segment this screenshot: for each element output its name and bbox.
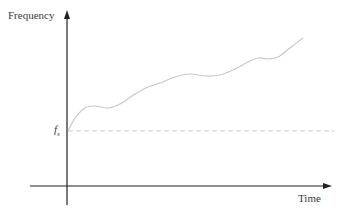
fs-tick-label: fs [54, 123, 60, 138]
fs-label-sub: s [57, 130, 60, 138]
frequency-curve [68, 38, 303, 131]
y-axis-label: Frequency [8, 9, 54, 21]
chart-canvas [0, 0, 344, 213]
x-axis-arrow-icon [323, 183, 332, 189]
y-axis-arrow-icon [64, 10, 70, 19]
x-axis-label: Time [298, 192, 321, 204]
